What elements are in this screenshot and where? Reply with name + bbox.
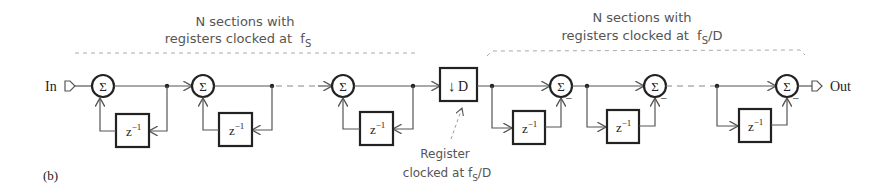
comb-stage-n: z−1 − Σ (715, 75, 800, 142)
decimator-block: ↓ D Register clocked at fS/D (403, 68, 491, 183)
svg-text:D: D (458, 79, 468, 94)
cic-decimator-diagram: N sections with registers clocked at fS … (0, 0, 895, 193)
svg-text:Σ: Σ (339, 79, 347, 94)
comb-title-line1: N sections with (592, 10, 691, 25)
svg-text:Σ: Σ (557, 79, 565, 94)
svg-text:Σ: Σ (99, 79, 107, 94)
input-label: In (45, 79, 57, 94)
integrator-title-line2: registers clocked at fS (165, 31, 312, 49)
svg-text:Σ: Σ (783, 79, 791, 94)
integrator-title-line1: N sections with (195, 14, 294, 29)
integrator-section-header: N sections with registers clocked at fS (75, 14, 415, 53)
comb-brace (487, 50, 805, 56)
comb-stage-2: z−1 − Σ (585, 75, 668, 143)
register-annotation-line2: clocked at fS/D (403, 166, 491, 183)
output-label: Out (830, 79, 851, 94)
integrator-stage-2: Σ z−1 (192, 75, 274, 146)
svg-text:Σ: Σ (199, 79, 207, 94)
comb-section-header: N sections with registers clocked at fS/… (487, 10, 805, 56)
integrator-stage-n: Σ z−1 (332, 75, 440, 145)
output-port-icon (812, 81, 822, 91)
input-port-icon (65, 81, 75, 91)
comb-title-line2: registers clocked at fS/D (562, 28, 723, 46)
figure-label: (b) (43, 168, 58, 183)
annotation-arrow (451, 108, 462, 139)
integrator-stage-1: Σ z−1 (92, 75, 192, 147)
down-arrow-icon: ↓ (448, 78, 456, 94)
register-annotation-line1: Register (420, 147, 469, 161)
svg-text:Σ: Σ (651, 79, 659, 94)
